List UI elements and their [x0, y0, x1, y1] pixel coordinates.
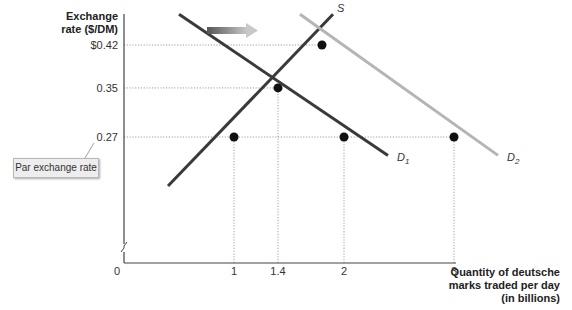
- equilibrium-point: [318, 41, 327, 50]
- curve-label-d2: D2: [507, 151, 520, 166]
- x-tick-label: 2: [341, 265, 347, 277]
- curve-label-s: S: [337, 2, 345, 14]
- curve-d2: [300, 14, 498, 155]
- shift-arrow-icon: [207, 23, 258, 38]
- origin-label: 0: [114, 265, 120, 277]
- x-tick-label: 1: [231, 265, 237, 277]
- y-axis-title-line1: Exchange: [66, 10, 118, 22]
- par-exchange-rate-callout: Par exchange rate: [13, 158, 99, 178]
- y-tick-label: 0.27: [97, 131, 118, 143]
- equilibrium-point: [274, 83, 283, 92]
- x-axis-title-line3: (in billions): [501, 292, 560, 304]
- equilibrium-point: [450, 133, 459, 142]
- x-axis-title-line1: Quantity of deutsche: [451, 266, 560, 278]
- equilibrium-point: [230, 133, 239, 142]
- y-axis-title-line2: rate ($/DM): [61, 23, 118, 35]
- equilibrium-point: [340, 133, 349, 142]
- curve-label-d1: D1: [397, 151, 409, 166]
- x-tick-label: 3: [451, 265, 457, 277]
- labels: Exchange rate ($/DM) Quantity of deutsch…: [61, 2, 561, 304]
- y-tick-label: 0.35: [97, 82, 118, 94]
- curve-d1: [179, 14, 388, 155]
- curves: [168, 14, 498, 186]
- x-tick-label: 1.4: [270, 265, 285, 277]
- axes: [121, 14, 456, 263]
- par-rate-pointer: [85, 143, 94, 158]
- chart: Exchange rate ($/DM) Quantity of deutsch…: [0, 0, 572, 310]
- y-tick-label: $0.42: [90, 39, 118, 51]
- x-axis-title-line2: marks traded per day: [449, 279, 561, 291]
